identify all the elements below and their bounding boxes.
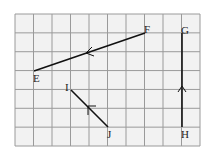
- label-g: G: [181, 25, 189, 36]
- label-i: I: [65, 82, 69, 93]
- label-j: J: [107, 129, 111, 140]
- label-h: H: [181, 129, 189, 140]
- label-e: E: [33, 73, 40, 84]
- label-f: F: [144, 24, 150, 35]
